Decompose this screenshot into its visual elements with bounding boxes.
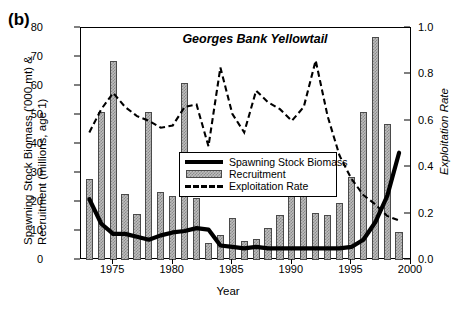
right-tick-label: 0.4 (418, 160, 433, 172)
y-tick-mark (74, 56, 80, 57)
x-tick-mark (410, 259, 411, 264)
right-tick-label: 0.8 (418, 67, 433, 79)
filled-bar-icon (184, 170, 224, 178)
y-tick-mark (74, 27, 80, 28)
x-tick-label: 1995 (338, 263, 362, 275)
y-tick-label: 80 (3, 21, 43, 33)
figure: (b) Georges Bank Yellowtail 010203040506… (0, 0, 456, 309)
right-axis-line (410, 27, 411, 259)
legend: Spawning Stock Biomass Recruitment Explo… (179, 152, 337, 197)
y-tick-mark (74, 85, 80, 86)
x-tick-label: 1990 (279, 263, 303, 275)
y-tick-mark (74, 230, 80, 231)
legend-item: Recruitment (184, 168, 332, 180)
legend-item: Spawning Stock Biomass (184, 156, 332, 168)
chart-title: Georges Bank Yellowtail (150, 32, 360, 46)
x-tick-mark (291, 259, 292, 264)
y-tick-mark (74, 143, 80, 144)
legend-item: Exploitation Rate (184, 180, 332, 192)
right-tick-mark (404, 119, 410, 120)
y-axis-label-line1: Spawning Stock Biomass ('000 mt) & (22, 56, 34, 245)
y-axis-label-line2: Recruitment (millions, age 1) (36, 99, 48, 245)
x-tick-mark (231, 259, 232, 264)
y-tick-mark (74, 201, 80, 202)
y-tick-mark (74, 172, 80, 173)
x-tick-label: 1985 (219, 263, 243, 275)
x-tick-label: 1980 (159, 263, 183, 275)
solid-line-icon (184, 160, 224, 164)
x-tick-mark (350, 259, 351, 264)
right-tick-label: 1.0 (418, 21, 433, 33)
x-tick-mark (112, 259, 113, 264)
x-tick-label: 1975 (100, 263, 124, 275)
right-tick-mark (404, 166, 410, 167)
y-tick-mark (74, 114, 80, 115)
legend-label: Exploitation Rate (229, 180, 308, 192)
right-tick-mark (404, 27, 410, 28)
y-tick-label: 0 (3, 253, 43, 265)
x-axis-label: Year (0, 285, 456, 297)
dashed-line-icon (184, 185, 224, 188)
x-tick-mark (172, 259, 173, 264)
legend-label: Recruitment (229, 168, 286, 180)
right-tick-mark (404, 212, 410, 213)
series-lines (81, 28, 411, 260)
right-tick-label: 0.2 (418, 207, 433, 219)
y-tick-mark (74, 259, 80, 260)
right-tick-mark (404, 73, 410, 74)
plot-area (80, 27, 410, 259)
right-tick-label: 0.6 (418, 114, 433, 126)
x-tick-label: 2000 (398, 263, 422, 275)
right-axis-label: Exploitation Rate (438, 88, 450, 175)
legend-label: Spawning Stock Biomass (229, 156, 347, 168)
